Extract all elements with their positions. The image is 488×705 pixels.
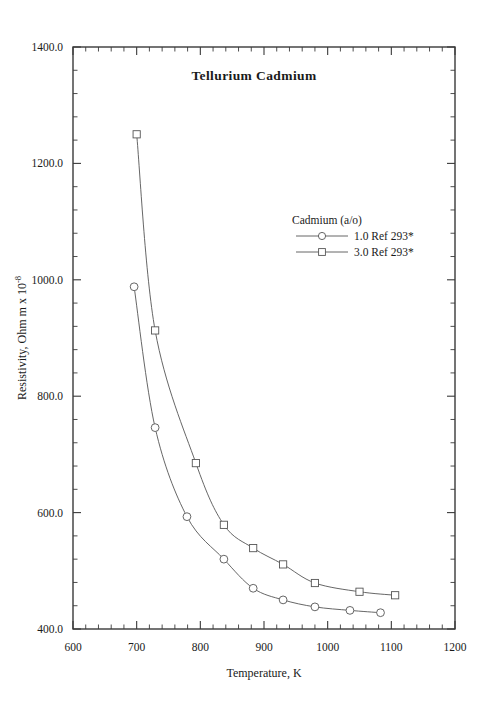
- legend-label-2: 3.0 Ref 293*: [354, 246, 414, 258]
- y-axis-label: Resistivity, Ohm m x 10-8: [13, 276, 29, 400]
- legend-marker-square: [319, 249, 326, 256]
- data-point-circle: [151, 424, 159, 432]
- x-tick-label: 1000: [316, 641, 339, 653]
- x-tick-label: 1200: [444, 641, 467, 653]
- x-tick-label: 1100: [380, 641, 403, 653]
- legend-label-1: 1.0 Ref 293*: [354, 230, 414, 242]
- x-axis-label: Temperature, K: [226, 666, 301, 680]
- chart-title: Tellurium Cadmium: [191, 68, 317, 83]
- data-point-square: [356, 588, 363, 595]
- data-point-circle: [130, 283, 138, 291]
- data-point-square: [280, 561, 287, 568]
- data-point-square: [152, 327, 159, 334]
- y-tick-label: 400.0: [37, 623, 63, 635]
- data-point-square: [311, 579, 318, 586]
- y-tick-label: 1200.0: [31, 157, 63, 169]
- x-tick-label: 800: [192, 641, 210, 653]
- x-tick-label: 700: [128, 641, 146, 653]
- data-point-square: [133, 131, 140, 138]
- chart-canvas: 600700800900100011001200400.0600.0800.01…: [0, 0, 488, 705]
- data-point-circle: [279, 596, 287, 604]
- plot-frame: [73, 47, 455, 629]
- y-tick-label: 800.0: [37, 390, 63, 402]
- y-tick-label: 1000.0: [31, 274, 63, 286]
- legend-title: Cadmium (a/o): [292, 214, 362, 227]
- data-point-circle: [249, 584, 257, 592]
- series-line-2: [137, 134, 395, 595]
- chart-figure: 600700800900100011001200400.0600.0800.01…: [0, 0, 488, 705]
- data-point-circle: [346, 606, 354, 614]
- data-point-square: [192, 460, 199, 467]
- data-point-square: [250, 545, 257, 552]
- x-tick-label: 600: [64, 641, 82, 653]
- y-tick-label: 1400.0: [31, 41, 63, 53]
- data-point-circle: [311, 603, 319, 611]
- data-point-circle: [183, 513, 191, 521]
- data-point-circle: [377, 609, 385, 617]
- data-point-square: [392, 592, 399, 599]
- legend-marker-circle: [318, 232, 325, 239]
- data-point-circle: [220, 555, 228, 563]
- x-tick-label: 900: [255, 641, 273, 653]
- data-point-square: [220, 521, 227, 528]
- series-line-1: [134, 287, 380, 613]
- y-tick-label: 600.0: [37, 507, 63, 519]
